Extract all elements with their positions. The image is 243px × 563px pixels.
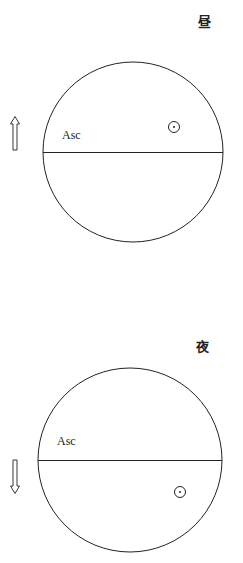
sun-icon (169, 122, 180, 133)
night-title: 夜 (196, 336, 209, 355)
diagram-canvas (0, 0, 243, 563)
day-chart (11, 62, 224, 242)
arrow-up-icon (11, 117, 20, 151)
arrow-down-icon (11, 460, 20, 494)
day-title: 昼 (198, 11, 211, 30)
sun-icon (175, 487, 186, 498)
night-asc-label: Asc (57, 434, 76, 449)
day-asc-label: Asc (62, 128, 81, 143)
night-chart (11, 368, 223, 552)
